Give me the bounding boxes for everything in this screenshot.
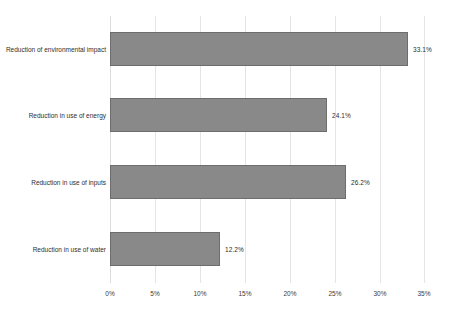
category-label-use-of-water: Reduction in use of water xyxy=(0,246,106,253)
xtick-label-5: 5% xyxy=(150,290,159,297)
xtick-label-0: 0% xyxy=(105,290,114,297)
bar-use-of-inputs[interactable] xyxy=(110,165,346,199)
category-label-environmental-impact: Reduction of environmental impact xyxy=(0,46,106,53)
xtick-label-20: 20% xyxy=(283,290,296,297)
bar-row: 12.2% xyxy=(110,232,425,266)
bar-environmental-impact[interactable] xyxy=(110,32,408,66)
bar-row: 33.1% xyxy=(110,32,425,66)
bar-value-label: 24.1% xyxy=(332,112,351,119)
bar-value-label: 33.1% xyxy=(413,46,432,53)
bar-value-label: 26.2% xyxy=(351,179,370,186)
bar-use-of-water[interactable] xyxy=(110,232,220,266)
category-label-use-of-energy: Reduction in use of energy xyxy=(0,112,106,119)
bar-chart: 33.1% 24.1% 26.2% 12.2% Reduction of env… xyxy=(0,0,449,312)
category-label-use-of-inputs: Reduction in use of inputs xyxy=(0,179,106,186)
xtick-label-15: 15% xyxy=(238,290,251,297)
bar-row: 26.2% xyxy=(110,165,425,199)
xtick-label-25: 25% xyxy=(328,290,341,297)
bar-row: 24.1% xyxy=(110,98,425,132)
bar-value-label: 12.2% xyxy=(225,246,244,253)
xtick-label-30: 30% xyxy=(373,290,386,297)
plot-area: 33.1% 24.1% 26.2% 12.2% xyxy=(110,16,425,283)
xtick-label-10: 10% xyxy=(193,290,206,297)
bar-use-of-energy[interactable] xyxy=(110,98,327,132)
xtick-label-35: 35% xyxy=(417,290,430,297)
